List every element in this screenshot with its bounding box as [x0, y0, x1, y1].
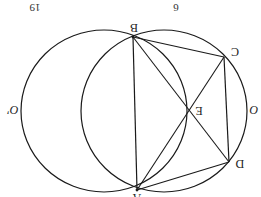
- header-fragment-19: 19: [29, 2, 41, 14]
- point-b-dot: [132, 36, 135, 39]
- header-fragment-6: 6: [173, 2, 179, 14]
- label-a: A: [132, 191, 141, 197]
- segment-bd: [133, 37, 229, 162]
- point-a-dot: [136, 189, 139, 192]
- segment-ab: [133, 37, 137, 190]
- segment-ac: [137, 57, 224, 190]
- label-c: C: [231, 45, 239, 59]
- label-o-prime: O': [7, 103, 19, 117]
- geometry-figure: 19 6 B C E D A O' O: [0, 0, 261, 197]
- segment-da: [137, 162, 229, 190]
- label-o: O: [249, 103, 258, 117]
- label-b: B: [130, 21, 138, 35]
- label-d: D: [235, 157, 244, 171]
- label-e: E: [195, 104, 202, 118]
- segment-cd: [224, 57, 229, 162]
- diagram-svg: 19 6 B C E D A O' O: [0, 0, 261, 197]
